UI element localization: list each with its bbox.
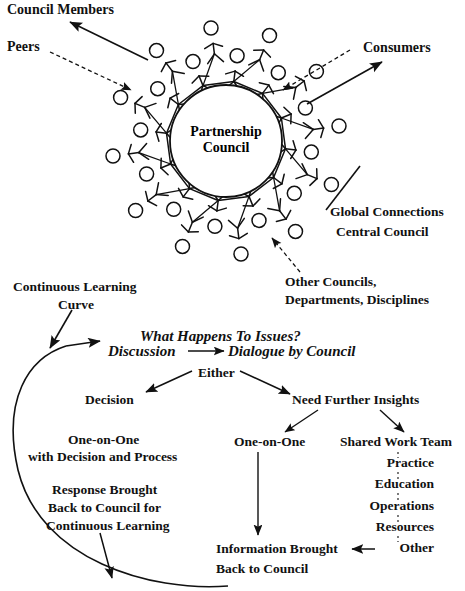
flow-one-on-one-right: One-on-One (234, 435, 305, 449)
label-global-connections: Global Connections (330, 205, 444, 219)
label-peers: Peers (7, 40, 40, 54)
either-to-decision-arrow (146, 371, 192, 392)
work-team-item-education: Education (0, 477, 434, 491)
insights-to-shared-work-team-arrow (380, 410, 404, 432)
flow-dialogue-by-council: Dialogue by Council (228, 344, 356, 359)
peers-pointer (50, 52, 131, 90)
page-title: Partnership Council (176, 124, 276, 155)
label-council-members: Council Members (7, 3, 114, 17)
flow-heading: What Happens To Issues? (140, 329, 301, 344)
work-team-item-resources: Resources (0, 520, 434, 534)
flow-discussion: Discussion (108, 344, 176, 359)
work-team-item-operations: Operations (0, 499, 434, 513)
flow-information-line1: Information Brought (216, 542, 338, 556)
center-title-line1: Partnership (176, 124, 276, 140)
label-curve: Curve (58, 298, 94, 312)
flow-need-further-insights: Need Further Insights (292, 393, 419, 407)
diagram-canvas: Partnership Council Council Members Peer… (0, 0, 465, 591)
label-continuous-learning: Continuous Learning (13, 280, 136, 294)
response-down-arrow (100, 533, 112, 578)
insights-to-one-on-one-arrow (285, 410, 318, 432)
label-other-councils: Other Councils, (285, 275, 376, 289)
flow-shared-work-team: Shared Work Team (340, 435, 452, 449)
flow-either: Either (198, 366, 235, 380)
council-members-pointer (70, 22, 148, 60)
other-councils-pointer (272, 238, 300, 272)
center-title-line2: Council (176, 140, 276, 156)
flow-information-line2: Back to Council (216, 562, 308, 576)
flow-decision: Decision (85, 393, 134, 407)
label-departments-disciplines: Departments, Disciplines (285, 293, 429, 307)
either-to-insights-arrow (240, 371, 290, 394)
continuous-learning-leader (50, 310, 72, 348)
label-central-council: Central Council (336, 225, 429, 239)
work-team-item-practice: Practice (0, 456, 434, 470)
flow-one-on-one-left-line1: One-on-One (68, 433, 139, 447)
label-consumers: Consumers (363, 41, 431, 55)
